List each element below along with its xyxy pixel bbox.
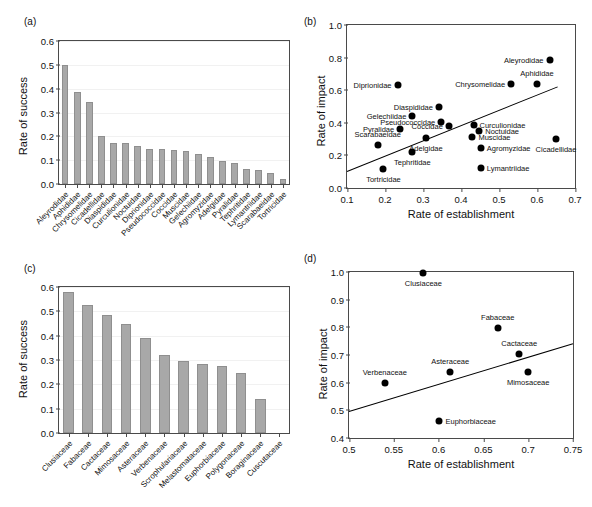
gridline	[59, 384, 289, 385]
data-point-label: Lymantriidae	[487, 164, 530, 173]
data-point-label: Aphididae	[520, 69, 553, 78]
bar	[122, 143, 129, 184]
panel-d-xtick: 0.55	[385, 438, 404, 455]
data-point	[477, 145, 484, 152]
panel-b-ytick: 1.0	[329, 20, 347, 31]
panel-b-plot-area: 0.00.20.40.60.81.00.10.20.30.40.50.60.7A…	[346, 24, 576, 189]
panel-c-ytick: 0.4	[41, 330, 59, 341]
bar	[110, 143, 117, 184]
data-point	[436, 417, 443, 424]
panel-c-tag: (c)	[24, 263, 36, 274]
panel-d: (d) Rate of impact 0.40.50.60.70.80.91.0…	[296, 253, 592, 507]
bar	[219, 161, 226, 184]
panel-d-xtick: 0.65	[474, 438, 493, 455]
bar	[207, 157, 214, 184]
panel-b-tag: (b)	[304, 16, 316, 27]
panel-b-xtick: 0.3	[416, 188, 429, 205]
panel-d-tag: (d)	[304, 253, 316, 264]
data-point	[494, 325, 501, 332]
data-point	[508, 80, 515, 87]
data-point	[435, 103, 442, 110]
panel-d-xtick: 0.7	[522, 438, 535, 455]
data-point-label: Scarabaeidae	[355, 130, 401, 139]
panel-a-ytick: 0.5	[41, 59, 59, 70]
bar	[243, 169, 250, 184]
data-point-label: Fabaceae	[481, 313, 514, 322]
data-point	[380, 165, 387, 172]
data-point	[525, 368, 532, 375]
bar	[217, 366, 228, 433]
panel-d-ytick: 0.7	[331, 350, 349, 361]
gridline	[59, 89, 289, 90]
bar	[140, 338, 151, 433]
data-point-label: Aleyrodidae	[504, 55, 544, 64]
bar	[146, 149, 153, 184]
panel-c-ytick: 0.3	[41, 355, 59, 366]
data-point-label: Verbenaceae	[363, 368, 407, 377]
data-point-label: Tortricidae	[366, 175, 401, 184]
bar	[195, 154, 202, 184]
data-point-label: Cactaceae	[501, 339, 537, 348]
data-point-label: Coccidae	[412, 121, 443, 130]
data-point	[374, 141, 381, 148]
panel-c: (c) Rate of success 0.00.10.20.30.40.50.…	[0, 253, 296, 507]
panel-c-ytick: 0.5	[41, 306, 59, 317]
data-point	[477, 165, 484, 172]
gridline	[59, 311, 289, 312]
panel-a-ytick: 0.2	[41, 131, 59, 142]
panel-a-plot-area: 0.00.10.20.30.40.50.6AleyrodidaeAphidida…	[58, 40, 290, 185]
data-point-label: Mimosaceae	[507, 378, 550, 387]
panel-b-xlabel: Rate of establishment	[346, 208, 576, 220]
data-point-label: Tephritidae	[394, 158, 431, 167]
panel-b-ylabel: Rate of impact	[315, 61, 327, 161]
panel-c-ytick: 0.0	[41, 428, 59, 439]
bar	[178, 361, 189, 433]
gridline	[59, 136, 289, 137]
gridline	[59, 336, 289, 337]
bar	[267, 173, 274, 184]
panel-b-xtick: 0.1	[340, 188, 353, 205]
panel-d-ytick: 0.8	[331, 322, 349, 333]
bar	[183, 151, 190, 184]
bar	[121, 324, 132, 433]
panel-a-ytick: 0.0	[41, 179, 59, 190]
data-point-label: Diprionidae	[354, 80, 392, 89]
bar	[134, 146, 141, 184]
data-point	[423, 135, 430, 142]
panel-b-ytick: 0.6	[329, 85, 347, 96]
panel-c-plot-area: 0.00.10.20.30.40.50.6ClusiaceaeFabaceaeC…	[58, 286, 290, 434]
panel-d-ytick: 0.6	[331, 377, 349, 388]
panel-a: (a) Rate of success 0.00.10.20.30.40.50.…	[0, 0, 296, 253]
panel-d-ytick: 0.5	[331, 405, 349, 416]
panel-b-ytick: 0.2	[329, 150, 347, 161]
data-point	[420, 269, 427, 276]
panel-b-xtick: 0.7	[568, 188, 581, 205]
bar	[171, 150, 178, 184]
panel-b-xtick: 0.2	[378, 188, 391, 205]
panel-b-xtick: 0.4	[454, 188, 467, 205]
panel-d-plot-area: 0.40.50.60.70.80.91.00.50.550.60.650.70.…	[348, 271, 574, 439]
gridline	[59, 287, 289, 288]
panel-a-tag: (a)	[24, 16, 36, 27]
panel-d-ytick: 0.9	[331, 294, 349, 305]
panel-d-xtick: 0.75	[564, 438, 583, 455]
data-point-label: Chrysomelidae	[455, 79, 505, 88]
panel-c-ylabel: Rate of success	[17, 314, 29, 404]
bar	[159, 355, 170, 433]
gridline	[59, 113, 289, 114]
gridline	[59, 65, 289, 66]
data-point-label: Muscidae	[478, 132, 510, 141]
gridline	[59, 41, 289, 42]
panel-d-xtick: 0.6	[432, 438, 445, 455]
panel-d-ylabel: Rate of impact	[317, 314, 329, 414]
panel-a-ytick: 0.3	[41, 107, 59, 118]
data-point	[447, 368, 454, 375]
bar	[255, 170, 262, 184]
panel-b-xtick: 0.5	[492, 188, 505, 205]
panel-d-ytick: 1.0	[331, 267, 349, 278]
data-point-label: Diaspididae	[394, 102, 433, 111]
panel-b: (b) Rate of impact 0.00.20.40.60.81.00.1…	[296, 0, 592, 253]
data-point-label: Asteraceae	[431, 357, 469, 366]
panel-a-ytick: 0.1	[41, 155, 59, 166]
panel-a-ytick: 0.4	[41, 83, 59, 94]
